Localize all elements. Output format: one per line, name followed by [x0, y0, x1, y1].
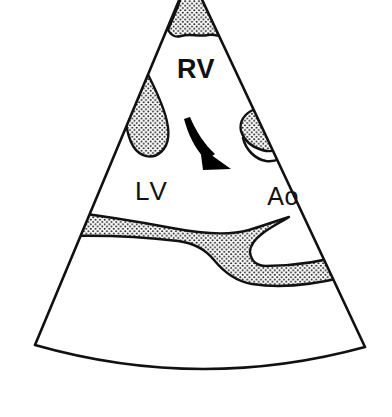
- label-ao: Ao: [267, 182, 299, 210]
- figure-root: RV LV Ao: [0, 0, 392, 417]
- sector-scan-figure: RV LV Ao: [0, 0, 392, 417]
- label-rv: RV: [177, 54, 215, 84]
- label-lv: LV: [135, 176, 169, 206]
